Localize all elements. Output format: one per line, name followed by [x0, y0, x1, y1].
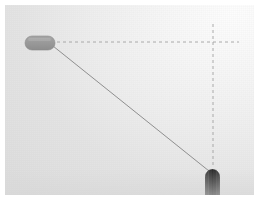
line-of-sight-connector [53, 46, 209, 171]
object-dark[interactable] [206, 169, 220, 195]
object-light-highlight [28, 38, 51, 41]
scene-frame [0, 0, 259, 201]
scene-vector-layer [5, 5, 254, 195]
scene-canvas [5, 5, 254, 195]
object-light[interactable] [25, 36, 55, 50]
